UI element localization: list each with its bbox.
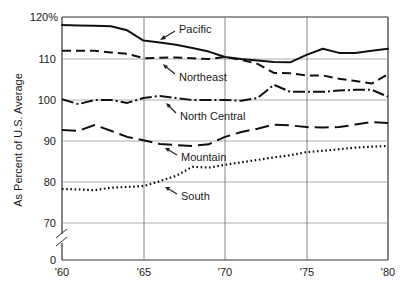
y-tick-100: 100 bbox=[38, 94, 56, 106]
northeast-label: Northeast bbox=[179, 71, 227, 83]
y-tick-110: 110 bbox=[38, 53, 56, 65]
north-central-label: North Central bbox=[180, 110, 245, 122]
pacific-label: Pacific bbox=[179, 23, 212, 35]
y-tick-80: 80 bbox=[44, 176, 56, 188]
mountain-label: Mountain bbox=[181, 151, 226, 163]
x-tick-1965: '65 bbox=[137, 266, 151, 278]
label-mountain: Mountain bbox=[165, 148, 226, 163]
y-tick-120: 120% bbox=[30, 11, 58, 23]
x-tick-1980: '80 bbox=[381, 266, 395, 278]
pacific-arrowhead-icon bbox=[160, 35, 166, 40]
label-north-central: North Central bbox=[166, 103, 245, 122]
label-northeast: Northeast bbox=[163, 64, 227, 83]
label-pacific: Pacific bbox=[160, 23, 212, 40]
regional-income-line-chart: 120% 110 100 90 80 70 0 '60 '65 '70 '75 … bbox=[0, 0, 405, 294]
y-axis-ticks: 120% 110 100 90 80 70 0 bbox=[30, 11, 58, 266]
south-label: South bbox=[181, 190, 210, 202]
y-axis-title: As Percent of U.S. Average bbox=[12, 73, 24, 207]
y-tick-0: 0 bbox=[50, 254, 56, 266]
x-tick-1960: '60 bbox=[55, 266, 69, 278]
x-tick-1975: '75 bbox=[300, 266, 314, 278]
x-tick-1970: '70 bbox=[218, 266, 232, 278]
vertical-gridlines bbox=[144, 17, 307, 260]
y-tick-70: 70 bbox=[44, 217, 56, 229]
y-tick-90: 90 bbox=[44, 135, 56, 147]
x-axis-ticks: '60 '65 '70 '75 '80 bbox=[55, 266, 395, 278]
label-south: South bbox=[165, 187, 210, 202]
